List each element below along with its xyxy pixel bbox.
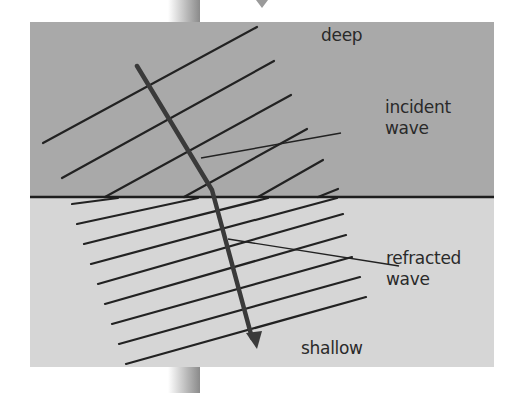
refracted-wave-label: refracted wave bbox=[386, 248, 461, 290]
deep-label: deep bbox=[321, 25, 362, 46]
refracted-label-line2: wave bbox=[386, 269, 461, 290]
incident-wave-label: incident wave bbox=[385, 97, 451, 139]
gradient-bar-top bbox=[168, 0, 200, 24]
refracted-label-line1: refracted bbox=[386, 248, 461, 269]
incident-label-line2: wave bbox=[385, 118, 451, 139]
incident-label-line1: incident bbox=[385, 97, 451, 118]
refraction-diagram: deep incident wave refracted wave shallo… bbox=[0, 0, 526, 393]
down-arrow-icon bbox=[256, 0, 268, 8]
diagram-canvas bbox=[0, 0, 526, 393]
shallow-label: shallow bbox=[301, 338, 363, 359]
gradient-bar-bottom bbox=[168, 365, 200, 393]
